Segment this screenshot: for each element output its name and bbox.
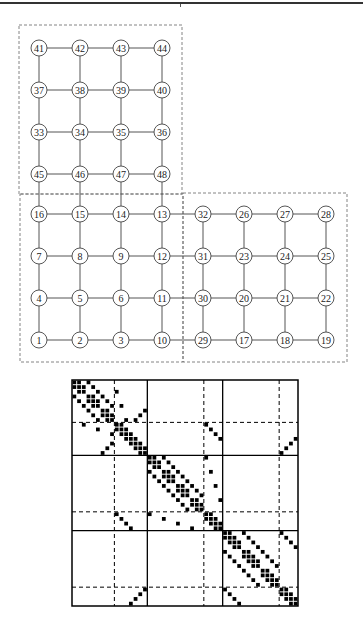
matrix-nonzero — [256, 559, 260, 563]
matrix-nonzero — [284, 446, 288, 450]
matrix-nonzero — [72, 380, 76, 384]
matrix-nonzero — [124, 432, 128, 436]
matrix-nonzero — [289, 592, 293, 596]
matrix-nonzero — [134, 418, 138, 422]
matrix-nonzero — [195, 489, 199, 493]
node-label: 40 — [157, 85, 167, 96]
matrix-nonzero — [134, 597, 138, 601]
matrix-nonzero — [96, 418, 100, 422]
matrix-nonzero — [167, 479, 171, 483]
matrix-nonzero — [223, 550, 227, 554]
matrix-nonzero — [148, 470, 152, 474]
matrix-nonzero — [87, 395, 91, 399]
matrix-nonzero — [96, 399, 100, 403]
matrix-nonzero — [167, 470, 171, 474]
node-label: 43 — [116, 43, 126, 54]
matrix-nonzero — [280, 451, 284, 455]
graph-node: 29 — [195, 332, 211, 348]
node-label: 17 — [239, 335, 249, 346]
matrix-nonzero — [110, 418, 114, 422]
matrix-nonzero — [167, 489, 171, 493]
matrix-nonzero — [237, 564, 241, 568]
graph-node: 12 — [154, 248, 170, 264]
matrix-nonzero — [96, 390, 100, 394]
matrix-nonzero — [190, 503, 194, 507]
node-label: 42 — [75, 43, 85, 54]
matrix-nonzero — [228, 555, 232, 559]
matrix-nonzero — [218, 522, 222, 526]
matrix-nonzero — [129, 526, 133, 530]
matrix-nonzero — [115, 390, 119, 394]
matrix-nonzero — [110, 413, 114, 417]
matrix-nonzero — [96, 428, 100, 432]
matrix-nonzero — [190, 526, 194, 530]
graph-node: 28 — [318, 206, 334, 222]
matrix-nonzero — [256, 583, 260, 587]
graph-node: 25 — [318, 248, 334, 264]
matrix-nonzero — [171, 475, 175, 479]
matrix-nonzero — [157, 479, 161, 483]
matrix-nonzero — [233, 597, 237, 601]
matrix-nonzero — [162, 456, 166, 460]
matrix-nonzero — [162, 475, 166, 479]
matrix-nonzero — [289, 541, 293, 545]
node-label: 4 — [37, 293, 42, 304]
matrix-nonzero — [237, 545, 241, 549]
matrix-nonzero — [162, 470, 166, 474]
node-label: 30 — [198, 293, 208, 304]
matrix-nonzero — [251, 559, 255, 563]
graph-node: 20 — [236, 290, 252, 306]
matrix-nonzero — [77, 380, 81, 384]
matrix-nonzero — [171, 493, 175, 497]
matrix-nonzero — [138, 442, 142, 446]
node-label: 29 — [198, 335, 208, 346]
graph-node: 22 — [318, 290, 334, 306]
matrix-nonzero — [129, 432, 133, 436]
matrix-nonzero — [105, 409, 109, 413]
matrix-nonzero — [294, 545, 298, 549]
graph-node: 9 — [113, 248, 129, 264]
matrix-nonzero — [209, 512, 213, 516]
graph-node: 40 — [154, 82, 170, 98]
matrix-nonzero — [233, 536, 237, 540]
matrix-nonzero — [171, 479, 175, 483]
matrix-nonzero — [284, 592, 288, 596]
matrix-nonzero — [115, 423, 119, 427]
node-label: 27 — [280, 209, 290, 220]
graph-node: 4 — [31, 290, 47, 306]
matrix-nonzero — [284, 536, 288, 540]
matrix-nonzero — [294, 597, 298, 601]
node-label: 3 — [119, 335, 124, 346]
node-label: 7 — [37, 251, 42, 262]
matrix-nonzero — [181, 489, 185, 493]
matrix-nonzero — [242, 531, 246, 535]
graph-node: 1 — [31, 332, 47, 348]
graph-node: 3 — [113, 332, 129, 348]
matrix-nonzero — [223, 536, 227, 540]
matrix-nonzero — [275, 564, 279, 568]
matrix-nonzero — [280, 531, 284, 535]
matrix-nonzero — [233, 541, 237, 545]
matrix-nonzero — [77, 390, 81, 394]
node-label: 37 — [34, 85, 44, 96]
node-label: 14 — [116, 209, 126, 220]
matrix-nonzero — [120, 423, 124, 427]
matrix-nonzero — [190, 498, 194, 502]
matrix-nonzero — [251, 564, 255, 568]
matrix-nonzero — [256, 545, 260, 549]
node-label: 34 — [75, 127, 85, 138]
matrix-nonzero — [261, 569, 265, 573]
matrix-nonzero — [190, 484, 194, 488]
matrix-nonzero — [223, 588, 227, 592]
matrix-nonzero — [289, 597, 293, 601]
node-label: 2 — [78, 335, 83, 346]
matrix-nonzero — [181, 503, 185, 507]
matrix-nonzero — [176, 484, 180, 488]
node-label: 26 — [239, 209, 249, 220]
matrix-nonzero — [284, 597, 288, 601]
matrix-nonzero — [228, 531, 232, 535]
node-label: 33 — [34, 127, 44, 138]
matrix-nonzero — [266, 569, 270, 573]
graph-node: 30 — [195, 290, 211, 306]
matrix-nonzero — [251, 541, 255, 545]
